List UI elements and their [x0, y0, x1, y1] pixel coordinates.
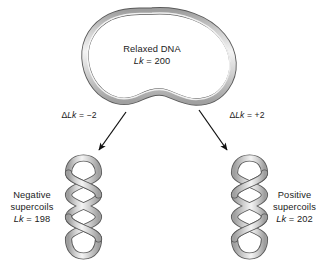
relaxed-dna-lk: Lk = 200	[104, 56, 200, 68]
relaxed-dna-title: Relaxed DNA	[104, 44, 200, 56]
negative-supercoils-lk: Lk = 198	[2, 214, 62, 226]
delta-lk-positive-label: ΔLk = +2	[216, 110, 278, 121]
positive-supercoil-structure	[235, 158, 265, 256]
relaxed-dna-label: Relaxed DNA Lk = 200	[104, 44, 200, 68]
positive-supercoils-label: Positive supercoils Lk = 202	[264, 190, 325, 226]
dna-supercoiling-figure: Relaxed DNA Lk = 200 ΔLk = −2 ΔLk = +2 N…	[0, 0, 327, 267]
delta-lk-negative-label: ΔLk = −2	[48, 110, 110, 121]
positive-supercoils-lk: Lk = 202	[264, 214, 325, 226]
positive-lk-symbol: Lk	[276, 214, 286, 224]
negative-lk-equation: = 198	[24, 214, 51, 224]
delta-lk-equation-right: = +2	[245, 110, 265, 120]
delta-lk-symbol-left: Lk	[67, 110, 76, 120]
positive-supercoils-line2: supercoils	[264, 202, 325, 214]
negative-supercoils-line2: supercoils	[2, 202, 62, 214]
negative-supercoils-label: Negative supercoils Lk = 198	[2, 190, 62, 226]
relaxed-lk-equation: = 200	[144, 56, 171, 66]
delta-lk-equation-left: = −2	[77, 110, 97, 120]
figure-canvas	[0, 0, 327, 267]
positive-supercoils-line1: Positive	[264, 190, 325, 202]
positive-lk-equation: = 202	[286, 214, 313, 224]
negative-lk-symbol: Lk	[14, 214, 24, 224]
negative-supercoils-line1: Negative	[2, 190, 62, 202]
negative-supercoil-structure	[69, 158, 99, 256]
relaxed-lk-symbol: Lk	[134, 56, 144, 66]
delta-lk-symbol-right: Lk	[235, 110, 244, 120]
